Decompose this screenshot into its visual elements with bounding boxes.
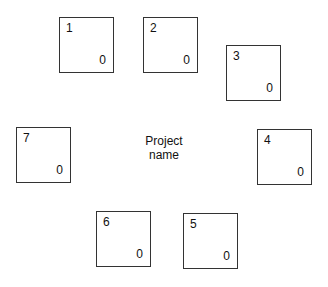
node-value: 0: [297, 165, 304, 179]
node-value: 0: [56, 163, 63, 177]
node-box-2[interactable]: 2 0: [143, 17, 198, 73]
node-number: 7: [23, 131, 30, 145]
node-value: 0: [136, 247, 143, 261]
node-number: 5: [190, 217, 197, 231]
node-number: 6: [103, 215, 110, 229]
node-value: 0: [266, 81, 273, 95]
node-value: 0: [223, 249, 230, 263]
node-number: 3: [233, 49, 240, 63]
node-box-4[interactable]: 4 0: [257, 129, 312, 185]
node-number: 1: [66, 21, 73, 35]
node-number: 4: [264, 133, 271, 147]
project-name-line1: Project: [124, 134, 204, 148]
node-value: 0: [183, 53, 190, 67]
node-value: 0: [99, 53, 106, 67]
node-number: 2: [150, 21, 157, 35]
node-box-6[interactable]: 6 0: [96, 211, 151, 267]
node-box-1[interactable]: 1 0: [59, 17, 114, 73]
node-box-3[interactable]: 3 0: [226, 45, 281, 101]
project-name-line2: name: [124, 148, 204, 162]
project-name-label: Project name: [124, 134, 204, 162]
node-box-5[interactable]: 5 0: [183, 213, 238, 269]
node-box-7[interactable]: 7 0: [16, 127, 71, 183]
